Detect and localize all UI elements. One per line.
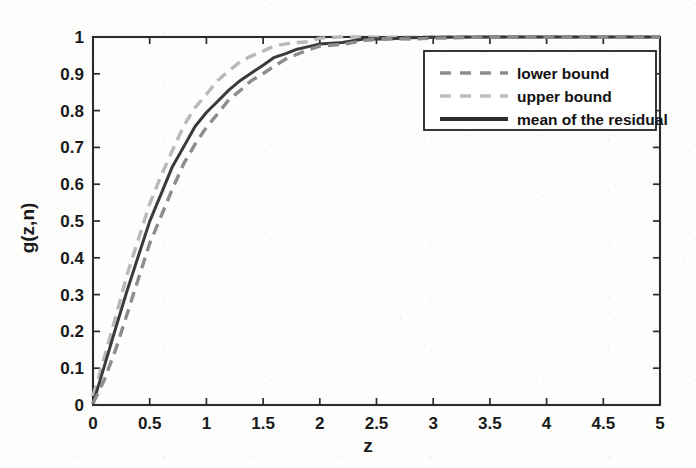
y-tick-label-2: 0.2 [60, 322, 84, 341]
y-tick-label-10: 1 [75, 28, 84, 47]
legend-label-0: lower bound [517, 65, 609, 82]
legend: lower boundupper boundmean of the residu… [424, 51, 668, 130]
y-tick-label-3: 0.3 [60, 286, 84, 305]
x-tick-label-8: 4 [542, 414, 552, 433]
y-axis-tick-labels: 00.10.20.30.40.50.60.70.80.91 [60, 28, 84, 415]
x-tick-label-0: 0 [88, 414, 97, 433]
x-tick-label-10: 5 [655, 414, 664, 433]
y-tick-label-8: 0.8 [60, 102, 84, 121]
x-axis-title: z [363, 435, 373, 456]
figure-root: 00.511.522.533.544.55 00.10.20.30.40.50.… [0, 0, 696, 468]
chart-canvas: 00.511.522.533.544.55 00.10.20.30.40.50.… [0, 0, 696, 468]
x-tick-label-7: 3.5 [478, 414, 502, 433]
y-tick-label-6: 0.6 [60, 175, 84, 194]
y-tick-label-7: 0.7 [60, 138, 84, 157]
x-tick-label-9: 4.5 [591, 414, 615, 433]
x-tick-label-6: 3 [428, 414, 437, 433]
x-tick-label-3: 1.5 [251, 414, 275, 433]
y-tick-label-9: 0.9 [60, 65, 84, 84]
y-axis-title: g(z,n) [17, 203, 38, 254]
y-tick-label-5: 0.5 [60, 212, 84, 231]
x-tick-label-5: 2.5 [365, 414, 389, 433]
y-tick-label-0: 0 [75, 396, 84, 415]
x-tick-label-4: 2 [315, 414, 324, 433]
x-tick-label-2: 1 [202, 414, 211, 433]
legend-label-1: upper bound [517, 88, 612, 105]
y-tick-label-4: 0.4 [60, 249, 84, 268]
x-tick-label-1: 0.5 [138, 414, 162, 433]
legend-label-2: mean of the residual [517, 111, 668, 128]
x-axis-tick-labels: 00.511.522.533.544.55 [88, 414, 664, 433]
y-tick-label-1: 0.1 [60, 359, 84, 378]
